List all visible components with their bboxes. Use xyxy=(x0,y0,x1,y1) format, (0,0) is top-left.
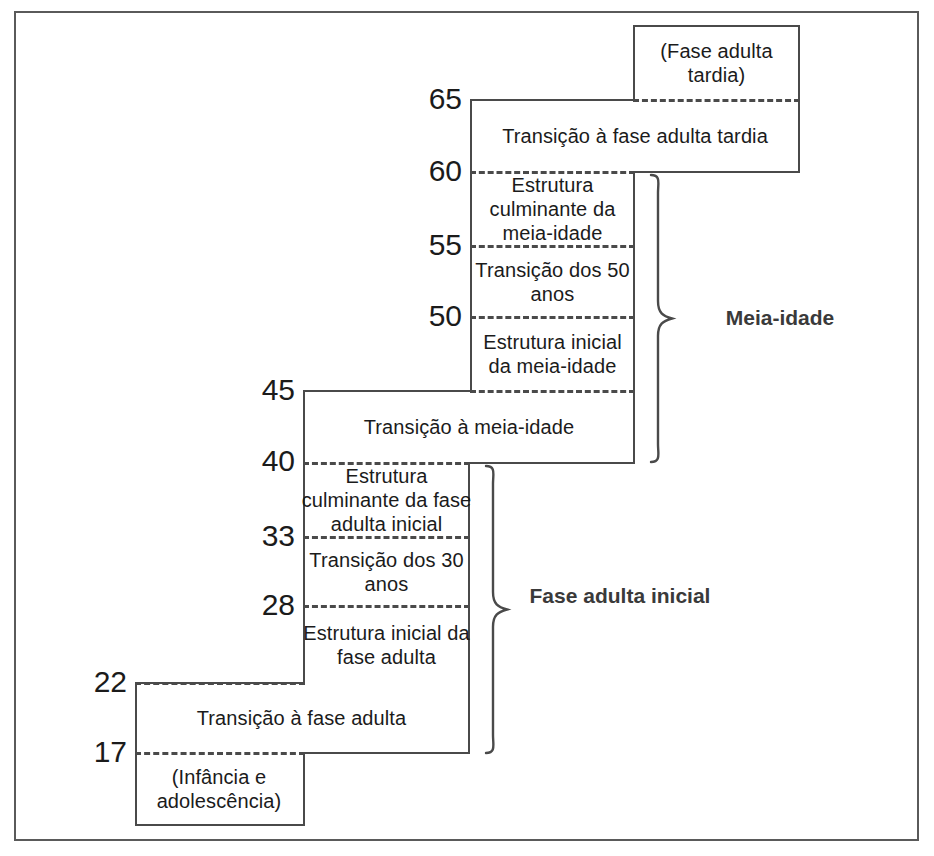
age-marker-22: 22 xyxy=(94,667,127,697)
edge-bottom-childhood xyxy=(135,824,305,826)
age-marker-33: 33 xyxy=(262,521,295,551)
age-marker-50: 50 xyxy=(429,301,462,331)
stage-label-midlife-transition: Transição à meia-idade xyxy=(303,392,635,462)
stage-label-fifties-transition: Transição dos 50 anos xyxy=(470,247,635,316)
stage-label-childhood: (Infância e adolescência) xyxy=(135,754,303,824)
edge-bottom-early-adult-transition xyxy=(303,752,470,754)
diagram-canvas: 65 60 55 50 45 40 33 28 22 17 (Fase adul… xyxy=(0,0,934,856)
brace-early-adulthood xyxy=(480,464,516,755)
age-marker-17: 17 xyxy=(94,737,127,767)
age-marker-45: 45 xyxy=(262,375,295,405)
stage-label-thirties-transition: Transição dos 30 anos xyxy=(303,538,470,605)
stage-label-late-adult-transition: Transição à fase adulta tardia xyxy=(470,101,800,171)
edge-right-childhood xyxy=(303,752,305,826)
era-label-early-adulthood: Fase adulta inicial xyxy=(520,583,720,609)
stage-label-culminating-early: Estrutura culminante da fase adulta inic… xyxy=(301,464,472,536)
age-marker-55: 55 xyxy=(429,230,462,260)
stage-label-early-adult-transition: Transição à fase adulta xyxy=(135,684,468,752)
stage-label-late-adulthood: (Fase adulta tardia) xyxy=(633,27,800,99)
stage-label-culminating-middle: Estrutura culminante da meia-idade xyxy=(470,173,635,245)
brace-middle-adulthood xyxy=(645,173,681,464)
age-marker-40: 40 xyxy=(262,446,295,476)
era-label-middle-adulthood: Meia-idade xyxy=(690,305,870,331)
age-marker-28: 28 xyxy=(262,590,295,620)
age-marker-65: 65 xyxy=(429,84,462,114)
stage-label-entry-middle: Estrutura inicial da meia-idade xyxy=(470,318,635,390)
stage-label-entry-early: Estrutura inicial da fase adulta xyxy=(303,607,470,682)
age-marker-60: 60 xyxy=(429,156,462,186)
